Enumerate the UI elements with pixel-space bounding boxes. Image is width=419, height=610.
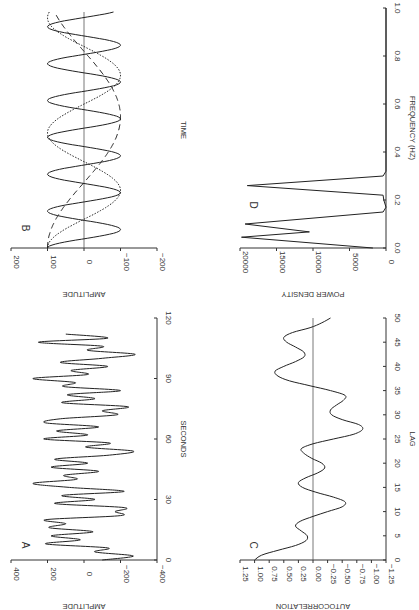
value-axis-label: AUTOCORRELATION: [276, 602, 350, 610]
domain-axis-label: FREQUENCY (HZ): [408, 96, 417, 161]
domain-tick-label: 90: [164, 374, 173, 383]
domain-tick-label: 0.6: [393, 98, 402, 110]
domain-tick-label: 10: [393, 507, 402, 516]
value-tick-label: 0: [85, 260, 94, 265]
value-tick-label: 1.00: [256, 566, 265, 582]
domain-tick-label: 25: [393, 435, 402, 444]
value-tick-label: 0.75: [270, 566, 279, 582]
value-tick-label: 200: [49, 567, 58, 581]
amplitude-series: [33, 334, 135, 560]
value-tick-label: 15000: [278, 251, 287, 274]
value-tick-label: 0.00: [314, 566, 323, 582]
value-tick-label: 0.25: [299, 566, 308, 582]
panel-letter: B: [20, 225, 31, 232]
panel-letter: D: [248, 201, 259, 208]
panel-b-component-waves: 2001000−100−200AMPLITUDETIMEB: [11, 12, 188, 299]
value-axis-label: AMPLITUDE: [63, 290, 106, 299]
value-tick-label: 100: [49, 255, 58, 269]
domain-tick-label: 0.4: [393, 146, 402, 158]
value-tick-label: −200: [122, 565, 131, 584]
value-tick-label: −1.00: [372, 564, 381, 585]
domain-tick-label: 0: [164, 558, 173, 563]
value-tick-label: −0.50: [343, 564, 352, 585]
domain-axis-label: LAG: [408, 431, 417, 446]
value-tick-label: 5000: [351, 253, 360, 271]
value-tick-label: −100: [122, 253, 131, 272]
domain-tick-label: 45: [393, 338, 402, 347]
domain-tick-label: 15: [393, 483, 402, 492]
value-tick-label: 10000: [314, 251, 323, 274]
value-tick-label: −0.75: [358, 564, 367, 585]
value-tick-label: −0.25: [329, 564, 338, 585]
value-tick-label: 0.50: [285, 566, 294, 582]
domain-tick-label: 30: [164, 495, 173, 504]
domain-tick-label: 40: [393, 362, 402, 371]
autocorrelation-series: [255, 318, 363, 560]
domain-axis-label: TIME: [179, 121, 188, 139]
domain-tick-label: 0.0: [393, 242, 402, 254]
value-tick-label: 1.25: [241, 566, 250, 582]
domain-tick-label: 30: [393, 410, 402, 419]
domain-tick-label: 1.0: [393, 2, 402, 14]
domain-tick-label: 0.2: [393, 194, 402, 206]
domain-tick-label: 50: [393, 314, 402, 323]
panel-letter: C: [248, 541, 259, 548]
domain-axis-label: SECONDS: [179, 420, 188, 457]
panel-letter: A: [20, 542, 31, 549]
domain-tick-label: 5: [393, 534, 402, 539]
value-tick-label: −400: [158, 565, 167, 584]
power-spectrum-series: [242, 8, 387, 248]
value-axis-label: POWER DENSITY: [282, 290, 345, 299]
domain-tick-label: 60: [164, 435, 173, 444]
value-tick-label: −200: [158, 253, 167, 272]
panel-c-autocorrelation: 1.251.000.750.500.250.00−0.25−0.50−0.75−…: [240, 314, 417, 610]
value-tick-label: 20000: [241, 251, 250, 274]
domain-tick-label: 35: [393, 386, 402, 395]
panel-a-time-series: 4002000−200−400AMPLITUDE0306090120SECOND…: [11, 311, 188, 610]
domain-tick-label: 20: [393, 459, 402, 468]
value-tick-label: 0: [85, 572, 94, 577]
domain-tick-label: 0: [393, 558, 402, 563]
domain-tick-label: 0.8: [393, 50, 402, 62]
value-tick-label: −1.25: [387, 564, 396, 585]
value-tick-label: 400: [12, 567, 21, 581]
value-axis-label: AMPLITUDE: [63, 602, 106, 610]
figure-four-panels: 4002000−200−400AMPLITUDE0306090120SECOND…: [0, 0, 419, 610]
domain-tick-label: 120: [164, 311, 173, 325]
value-tick-label: 0: [387, 260, 396, 265]
panel-d-power-spectrum: 20000150001000050000POWER DENSITY0.00.20…: [240, 2, 417, 299]
value-tick-label: 200: [12, 255, 21, 269]
